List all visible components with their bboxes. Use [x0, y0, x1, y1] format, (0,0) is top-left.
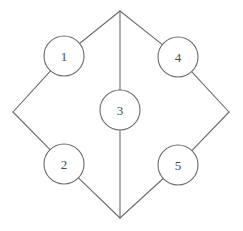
graph-node-2[interactable]: 2	[44, 144, 84, 184]
graph-diagram: 12345	[0, 0, 243, 231]
graph-edge-right-5	[192, 112, 229, 151]
node-label-4: 4	[175, 50, 182, 65]
graph-node-4[interactable]: 4	[158, 37, 198, 77]
graph-node-1[interactable]: 1	[44, 36, 84, 76]
node-label-3: 3	[117, 103, 124, 118]
graph-node-3[interactable]: 3	[100, 90, 140, 130]
node-label-5: 5	[175, 158, 182, 173]
graph-canvas: 12345	[0, 0, 243, 231]
graph-node-5[interactable]: 5	[158, 145, 198, 185]
graph-edge-1-left	[13, 71, 51, 112]
graph-edge-5-bottom	[120, 178, 163, 218]
nodes-layer: 12345	[44, 36, 198, 185]
graph-edge-2-bottom	[78, 178, 120, 218]
graph-edge-4-right	[192, 72, 229, 112]
node-label-2: 2	[61, 157, 68, 172]
graph-edge-top-1	[80, 11, 120, 43]
graph-edge-left-2	[13, 112, 50, 150]
graph-edge-top-4	[120, 11, 162, 45]
node-label-1: 1	[61, 49, 68, 64]
